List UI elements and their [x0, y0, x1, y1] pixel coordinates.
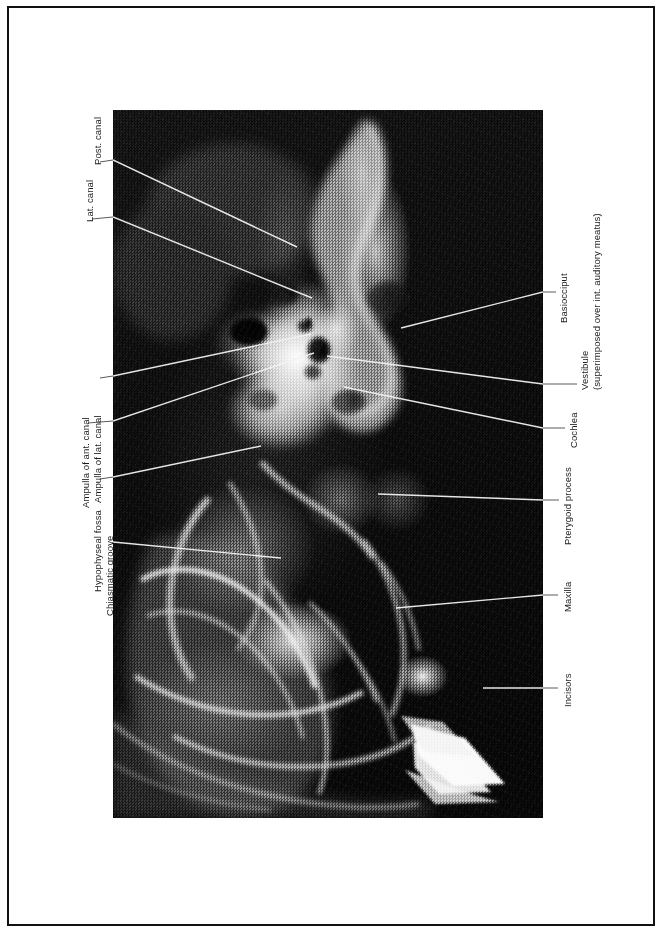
leader-lines-on-film — [113, 110, 543, 818]
label-incisors: Incisors — [562, 673, 573, 707]
label-ampulla-of-ant-canal: Ampulla of ant. canal — [80, 417, 91, 508]
label-vestibule-qualifier: (superimposed over int. auditory meatus) — [591, 213, 602, 390]
label-vestibule-line1: Vestibule — [579, 351, 590, 390]
label-ampulla-of-lat-canal: Ampulla of lat. canal — [92, 415, 103, 503]
radiograph-image — [113, 110, 543, 818]
label-basiocciput: Basiocciput — [558, 273, 569, 323]
leader-lat-canal — [92, 217, 113, 219]
label-lat-canal: Lat. canal — [84, 180, 95, 222]
label-post-canal: Post. canal — [92, 117, 103, 165]
label-chiasmatic-groove: Chiasmatic groove — [104, 536, 115, 616]
label-hypophyseal-fossa: Hypophyseal fossa — [92, 510, 103, 592]
label-pterygoid-process: Pterygoid process — [562, 467, 573, 545]
label-vestibule: Vestibule — [579, 351, 590, 390]
label-vestibule-line2: (superimposed over int. auditory meatus) — [591, 213, 602, 390]
label-cochlea: Cochlea — [568, 412, 579, 448]
leader-ampulla-lat-canal — [100, 376, 113, 378]
label-maxilla: Maxilla — [562, 582, 573, 612]
